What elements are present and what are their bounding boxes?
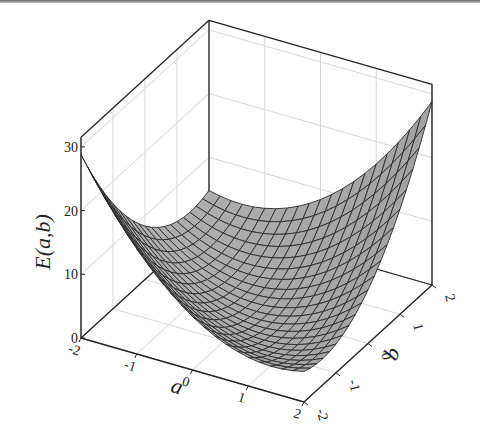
x-tick: [191, 370, 193, 374]
z-tick-label: 20: [64, 204, 78, 219]
z-axis-label: E(a,b): [30, 214, 55, 271]
x-tick: [246, 386, 248, 390]
y-tick: [400, 314, 404, 317]
y-tick: [304, 402, 308, 405]
x-tick: [135, 354, 137, 358]
y-tick-label: 1: [410, 322, 426, 333]
z-tick-label: 10: [64, 267, 78, 282]
y-tick-label: 2: [442, 293, 458, 304]
y-tick: [368, 344, 372, 347]
y-tick: [336, 373, 340, 376]
x-tick-label: 2: [292, 406, 303, 422]
x-tick-label: -2: [67, 341, 83, 359]
x-tick-label: -1: [122, 357, 138, 375]
z-tick-label: 30: [64, 140, 78, 155]
x-tick: [79, 338, 81, 342]
surface-plot: 0102030-2-1012-2-1012 E(a,b) a b: [0, 0, 480, 439]
x-tick: [302, 402, 304, 406]
y-tick: [432, 285, 436, 288]
x-tick-label: 1: [236, 390, 247, 406]
y-tick-label: -1: [346, 378, 364, 393]
y-tick-label: -2: [314, 407, 332, 422]
